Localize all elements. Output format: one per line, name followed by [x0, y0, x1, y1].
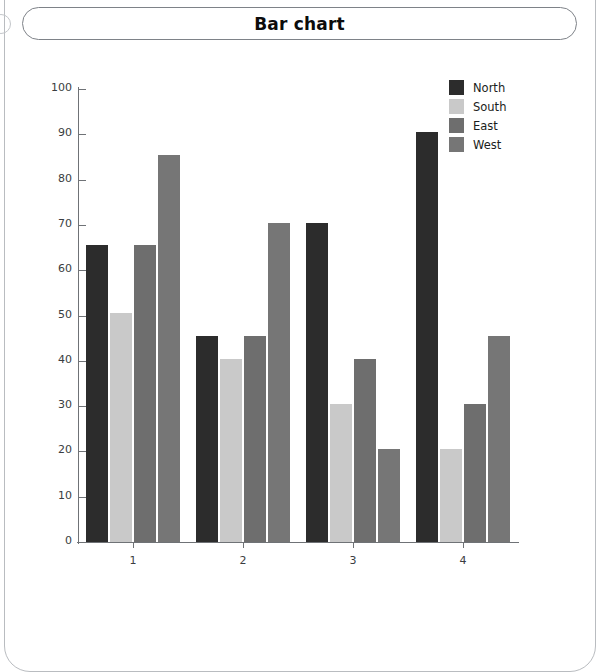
bar-west-group-3: [378, 449, 400, 542]
bar-east-group-3: [354, 359, 376, 542]
y-axis-tick-label: 90: [58, 126, 72, 139]
chart-legend: NorthSouthEastWest: [449, 78, 554, 154]
y-axis-tick-label: 30: [58, 398, 72, 411]
y-axis-tick-label: 20: [58, 443, 72, 456]
x-axis-tick-mark: [353, 542, 354, 548]
bar-west-group-4: [488, 336, 510, 542]
x-axis-line: [77, 542, 519, 543]
legend-item-south[interactable]: South: [449, 97, 554, 116]
bar-south-group-3: [330, 404, 352, 542]
bar-west-group-2: [268, 223, 290, 542]
y-axis-tick-label: 100: [51, 81, 72, 94]
bar-east-group-2: [244, 336, 266, 542]
x-axis-tick-mark: [463, 542, 464, 548]
legend-item-east[interactable]: East: [449, 116, 554, 135]
x-axis-tick-label: 3: [333, 554, 373, 567]
bar-north-group-2: [196, 336, 218, 542]
x-axis-tick-label: 4: [443, 554, 483, 567]
bar-north-group-1: [86, 245, 108, 542]
y-axis-tick-label: 10: [58, 489, 72, 502]
bar-south-group-1: [110, 313, 132, 542]
legend-label: West: [473, 138, 501, 152]
bar-north-group-4: [416, 132, 438, 542]
y-axis-tick-label: 70: [58, 217, 72, 230]
legend-label: North: [473, 81, 505, 95]
bar-east-group-1: [134, 245, 156, 542]
legend-item-west[interactable]: West: [449, 135, 554, 154]
y-axis-tick-label: 60: [58, 262, 72, 275]
legend-swatch-icon: [449, 118, 464, 133]
bar-west-group-1: [158, 155, 180, 542]
y-axis-tick-label: 40: [58, 353, 72, 366]
legend-swatch-icon: [449, 99, 464, 114]
bar-east-group-4: [464, 404, 486, 542]
bar-north-group-3: [306, 223, 328, 542]
x-axis-tick-label: 2: [223, 554, 263, 567]
bar-south-group-4: [440, 449, 462, 542]
legend-item-north[interactable]: North: [449, 78, 554, 97]
y-axis-tick-mark: [79, 542, 86, 543]
legend-label: East: [473, 119, 498, 133]
x-axis-tick-mark: [243, 542, 244, 548]
y-axis-tick-label: 0: [65, 534, 72, 547]
bar-south-group-2: [220, 359, 242, 542]
y-axis-tick-label: 80: [58, 172, 72, 185]
plot-area: [78, 89, 518, 542]
legend-label: South: [473, 100, 506, 114]
legend-swatch-icon: [449, 137, 464, 152]
legend-swatch-icon: [449, 80, 464, 95]
x-axis-tick-label: 1: [113, 554, 153, 567]
y-axis-tick-label: 50: [58, 308, 72, 321]
x-axis-tick-mark: [133, 542, 134, 548]
